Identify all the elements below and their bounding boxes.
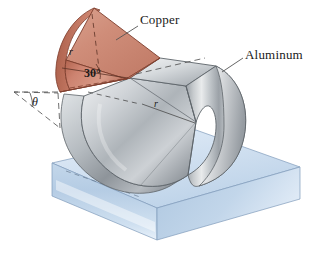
angle-30-label: 30° xyxy=(84,66,101,81)
theta-label: θ xyxy=(32,95,38,110)
aluminum-radius-label: r xyxy=(154,98,158,109)
theta-upper-arm xyxy=(14,92,58,93)
copper-label: Copper xyxy=(140,12,179,28)
aluminum-leader-line xyxy=(222,58,243,72)
theta-closing-arm xyxy=(58,93,60,128)
aluminum-label: Aluminum xyxy=(245,47,303,63)
figure-canvas xyxy=(0,0,316,256)
copper-radius-label: r xyxy=(69,46,73,57)
engineering-figure: Copper Aluminum 30° r r θ xyxy=(0,0,316,256)
